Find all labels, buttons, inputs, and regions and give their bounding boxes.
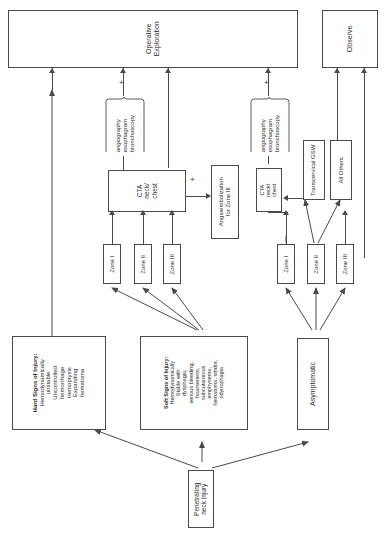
node-cta-neck-chest-right: CTA neck/ chest [256,168,282,212]
soft-signs-line: odynophagia [219,357,225,409]
adjunct-tests-right-labels: angiography esophagram bronchoscopy [260,96,281,152]
arrowhead-zone-left-3 [169,210,175,215]
zone-right-label: Zone III [342,254,349,274]
soft-signs-line: hoarseness, [194,357,200,409]
arrowhead-observe-2 [361,68,367,73]
soft-signs-line: subcutaneous [200,357,206,409]
soft-signs-line: Hemodynamically [169,357,175,409]
adjunct-test-label: bronchoscopy [273,96,280,152]
operative-exploration-label-line2: Exploration [153,21,161,56]
connector-zone-left-3-stem [172,212,173,244]
node-zone-right-3: Zone III [336,244,354,284]
angioembolization-label-line2: for Zone III [225,177,232,226]
arrowhead-zone-right-3 [342,210,348,215]
connector-layer [0,0,387,537]
node-zone-left-1: Zone I [103,244,121,284]
node-zone-left-2: Zone II [134,244,152,284]
all-others-label: All Others [338,157,345,183]
node-asymptomatic: Asymptomatic [297,338,329,430]
connector-zone-right-1-bus [268,212,288,213]
connector-allothers-to-observe [364,68,365,258]
arrowhead-cta-right [283,195,288,201]
connector-tests-right-to-op [168,68,169,168]
arrowhead-zone-left-2 [140,210,146,215]
connector-zone-left-2-stem [143,212,144,244]
node-zone-right-2: Zone II [307,244,325,284]
arrowhead-op-1 [49,68,55,73]
cta-left-label-line2: neck/ [143,183,150,199]
plus-sign-top-left: + [119,78,124,87]
zone-left-label: Zone I [109,255,116,272]
adjunct-test-label: angiography [115,96,122,152]
connector-bracket-left-stem [123,156,124,170]
arrowhead-op-2 [120,68,126,73]
connector-gsw-to-cta [288,198,304,199]
adjunct-tests-right: angiography esophagram bronchoscopy [248,96,292,156]
connector-cta-to-angio [186,196,208,197]
observe-label: Observe [346,26,354,52]
node-zone-right-1: Zone I [277,244,295,284]
transcervical-gsw-label: Transcervical GSW [311,144,318,195]
arrowhead-op-4 [265,68,271,73]
arrowhead-zone-left-1 [109,210,115,215]
node-soft-signs: Soft Signs of Injury: Hemodynamically St… [140,336,248,430]
connector-bracket-right-stem [268,156,269,164]
plus-sign-top-right: + [264,78,269,87]
asymptomatic-label: Asymptomatic [309,362,317,406]
cta-left-label-line3: chest [151,183,158,199]
connector-zone-right-1-stem [286,212,287,244]
zone-left-label: Zone II [140,255,147,274]
node-observe: Observe [322,10,378,68]
adjunct-tests-left: angiography esophagram bronchoscopy [103,96,147,156]
node-angioembolization: Angioembolization for Zone III [211,165,239,239]
connector-zone-left-1-stem [112,212,113,244]
arrowhead-op-3 [165,68,171,73]
plus-sign-cta-angio: + [190,175,195,184]
soft-signs-line: emphysema, [206,357,212,409]
cta-right-label-line3: chest [272,183,278,196]
connector-zone-right-3-stem [345,212,346,244]
adjunct-test-label: angiography [260,96,267,152]
soft-signs-line: venous bleeding, [188,357,194,409]
zone-right-label: Zone I [283,255,290,272]
adjunct-test-label: esophagram [267,96,274,152]
adjunct-test-label: bronchoscopy [128,96,135,152]
node-transcervical-gsw: Transcervical GSW [303,140,325,200]
zone-right-label: Zone II [313,255,320,274]
node-hard-signs: Hard Signs of Injury: Hemodynamically un… [12,336,106,430]
hard-signs-line: hematoma [79,353,86,412]
soft-signs-line: dysphagia, [182,357,188,409]
arrowhead-observe-1 [334,68,340,73]
node-all-others: All Others [330,140,352,200]
soft-signs-line: Stable with [176,357,182,409]
penetrating-injury-label-line2: neck injury [201,482,208,515]
node-zone-left-3: Zone III [163,244,181,284]
adjunct-tests-left-labels: angiography esophagram bronchoscopy [115,96,136,152]
soft-signs-line: hematoma, stridor, [212,357,218,409]
diagram-canvas: Operative Exploration Observe angiograph… [0,0,387,537]
adjunct-test-label: esophagram [122,96,129,152]
soft-signs-title: Soft Signs of Injury: [163,357,169,409]
zone-left-label: Zone III [169,254,176,274]
node-cta-neck-chest-left: CTA neck/ chest [108,170,186,212]
node-operative-exploration: Operative Exploration [8,10,298,68]
node-penetrating-neck-injury: Penetrating neck injury [188,470,214,528]
